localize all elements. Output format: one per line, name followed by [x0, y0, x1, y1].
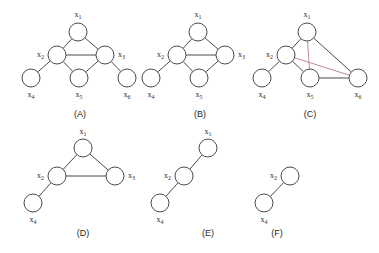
graph-node-x2 — [168, 46, 186, 64]
graph-edge-x3-x5 — [206, 61, 219, 72]
node-label-x1: x1 — [75, 10, 82, 20]
graph-edge-x2-x4 — [38, 61, 51, 72]
graph-edge-x2-x4 — [166, 183, 178, 197]
graph-panel-a: x1x2x3x4x5x6(A) — [22, 10, 136, 119]
graph-edge-x3-x6 — [111, 62, 121, 72]
graph-edge-x1-x2 — [292, 39, 301, 49]
graph-node-x3 — [106, 167, 124, 185]
graph-node-x4 — [142, 69, 160, 87]
graph-node-x4 — [22, 69, 40, 87]
graph-edge-x2-x4 — [270, 182, 284, 196]
edges-group — [270, 182, 284, 196]
graph-node-x4 — [24, 194, 42, 212]
node-label-x1: x1 — [205, 127, 212, 137]
graph-node-x4 — [253, 69, 271, 87]
node-label-x2: x2 — [37, 171, 44, 181]
graph-node-x2 — [48, 46, 66, 64]
graph-edge-x2-x5 — [183, 62, 193, 72]
graph-node-x4 — [255, 194, 273, 212]
panel-caption-d: (D) — [77, 228, 90, 238]
node-label-x3: x3 — [118, 50, 125, 60]
node-label-x4: x4 — [157, 215, 164, 225]
graph-node-x2 — [48, 167, 66, 185]
node-label-x5: x5 — [307, 90, 314, 100]
node-label-x6: x6 — [355, 90, 362, 100]
graph-node-x4 — [151, 194, 169, 212]
graph-node-x5 — [190, 69, 208, 87]
node-label-x5: x5 — [196, 90, 203, 100]
graph-edge-x1-x2 — [63, 39, 72, 49]
graph-edge-x2-x5 — [293, 61, 304, 72]
panel-caption-c: (C) — [304, 109, 317, 119]
graph-canvas: x1x2x3x4x5x6(A)x1x2x3x4x5(B)x1x2x4x5x6(C… — [0, 0, 379, 253]
graph-edge-x2-x4 — [158, 61, 171, 72]
panel-caption-a: (A) — [74, 109, 86, 119]
node-label-x1: x1 — [80, 127, 87, 137]
graph-node-x1 — [199, 139, 217, 157]
graph-edge-x1-x5 — [308, 41, 310, 69]
node-label-x5: x5 — [76, 90, 83, 100]
node-label-x3: x3 — [128, 171, 135, 181]
node-label-x4: x4 — [259, 90, 266, 100]
graph-edge-x1-x2 — [63, 155, 77, 170]
node-label-x1: x1 — [195, 10, 202, 20]
graph-node-x1 — [69, 23, 87, 41]
graph-panel-e: x1x2x4(E) — [151, 127, 217, 238]
node-label-x3: x3 — [238, 50, 245, 60]
graph-node-x6 — [349, 69, 367, 87]
graph-panel-c: x1x2x4x5x6(C) — [253, 10, 367, 119]
node-label-x4: x4 — [30, 215, 37, 225]
node-label-x2: x2 — [266, 50, 273, 60]
node-label-x4: x4 — [261, 215, 268, 225]
graph-panel-d: x1x2x3x4(D) — [24, 127, 135, 238]
node-label-x6: x6 — [124, 90, 131, 100]
graph-node-x3 — [96, 46, 114, 64]
panel-caption-f: (F) — [271, 228, 283, 238]
graph-node-x2 — [175, 167, 193, 185]
panels-layer: x1x2x3x4x5x6(A)x1x2x3x4x5(B)x1x2x4x5x6(C… — [22, 10, 367, 238]
node-label-x2: x2 — [164, 171, 171, 181]
graph-node-x1 — [298, 23, 316, 41]
edges-group — [158, 38, 219, 72]
graph-edge-x2-x4 — [39, 183, 51, 197]
graph-edge-x1-x2 — [183, 39, 192, 49]
node-label-x2: x2 — [37, 50, 44, 60]
node-label-x1: x1 — [304, 10, 311, 20]
panel-caption-e: (E) — [202, 228, 214, 238]
graph-node-x5 — [301, 69, 319, 87]
graph-edge-x1-x3 — [85, 38, 98, 49]
node-label-x2: x2 — [270, 171, 277, 181]
graph-node-x5 — [70, 69, 88, 87]
graph-panel-f: x2x4(F) — [255, 167, 299, 238]
graph-node-x1 — [189, 23, 207, 41]
graph-node-x1 — [74, 139, 92, 157]
graph-node-x2 — [281, 167, 299, 185]
graph-node-x3 — [216, 46, 234, 64]
node-label-x4: x4 — [148, 90, 155, 100]
graph-node-x6 — [118, 69, 136, 87]
graph-edge-x2-x5 — [63, 62, 73, 72]
graph-edge-x1-x3 — [205, 38, 218, 49]
graph-panel-b: x1x2x3x4x5(B) — [142, 10, 245, 119]
graph-edge-x1-x6 — [314, 38, 352, 72]
graph-edge-x1-x3 — [90, 154, 108, 170]
graph-edge-x1-x2 — [190, 155, 202, 169]
graph-edge-x3-x5 — [86, 61, 99, 72]
panel-caption-b: (B) — [194, 109, 206, 119]
node-label-x4: x4 — [28, 90, 35, 100]
node-label-x2: x2 — [157, 50, 164, 60]
graph-node-x2 — [277, 46, 295, 64]
graph-edge-x2-x4 — [269, 61, 280, 72]
graph-figure: x1x2x3x4x5x6(A)x1x2x3x4x5(B)x1x2x4x5x6(C… — [0, 0, 379, 253]
